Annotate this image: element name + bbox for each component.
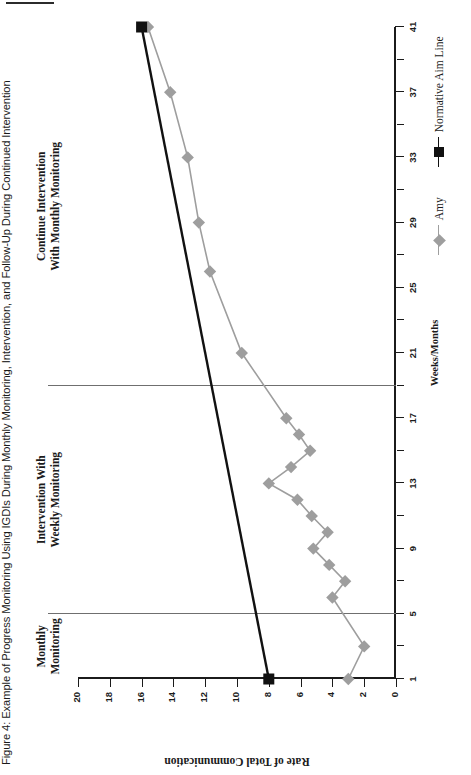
y-axis-title: Rate of Total Communication <box>78 749 396 775</box>
series-amy <box>142 21 371 685</box>
square-marker <box>434 147 444 157</box>
legend-label: Normative Aim Line <box>433 36 445 132</box>
square-marker <box>263 674 274 685</box>
rotated-figure-container: Figure 4: Example of Progress Monitoring… <box>0 0 471 775</box>
square-marker <box>136 22 147 33</box>
legend-item: Amy <box>432 197 446 255</box>
diamond-marker <box>358 640 370 652</box>
series-line <box>148 27 364 679</box>
data-series-layer <box>28 0 448 775</box>
chart-legend: AmyNormative Aim Line <box>432 36 446 255</box>
diamond-marker <box>263 477 275 489</box>
diamond-marker <box>433 234 446 247</box>
figure-caption: Figure 4: Example of Progress Monitoring… <box>0 5 12 765</box>
diamond-marker <box>204 265 216 277</box>
diamond-marker <box>236 347 248 359</box>
y-axis-title-text: Rate of Total Communication <box>164 756 309 768</box>
chart-plot-area: 02468101214161820 1591317212529333741 Mo… <box>28 0 448 775</box>
series-line <box>142 27 269 679</box>
diamond-marker <box>342 673 354 685</box>
diamond-marker <box>164 86 176 98</box>
diamond-marker <box>193 216 205 228</box>
figure-page: Figure 4: Example of Progress Monitoring… <box>0 0 471 775</box>
diamond-marker <box>182 151 194 163</box>
legend-label: Amy <box>433 197 445 220</box>
legend-swatch <box>432 137 446 167</box>
legend-item: Normative Aim Line <box>432 36 446 167</box>
legend-swatch <box>432 225 446 255</box>
series-normative-aim-line <box>136 22 274 685</box>
